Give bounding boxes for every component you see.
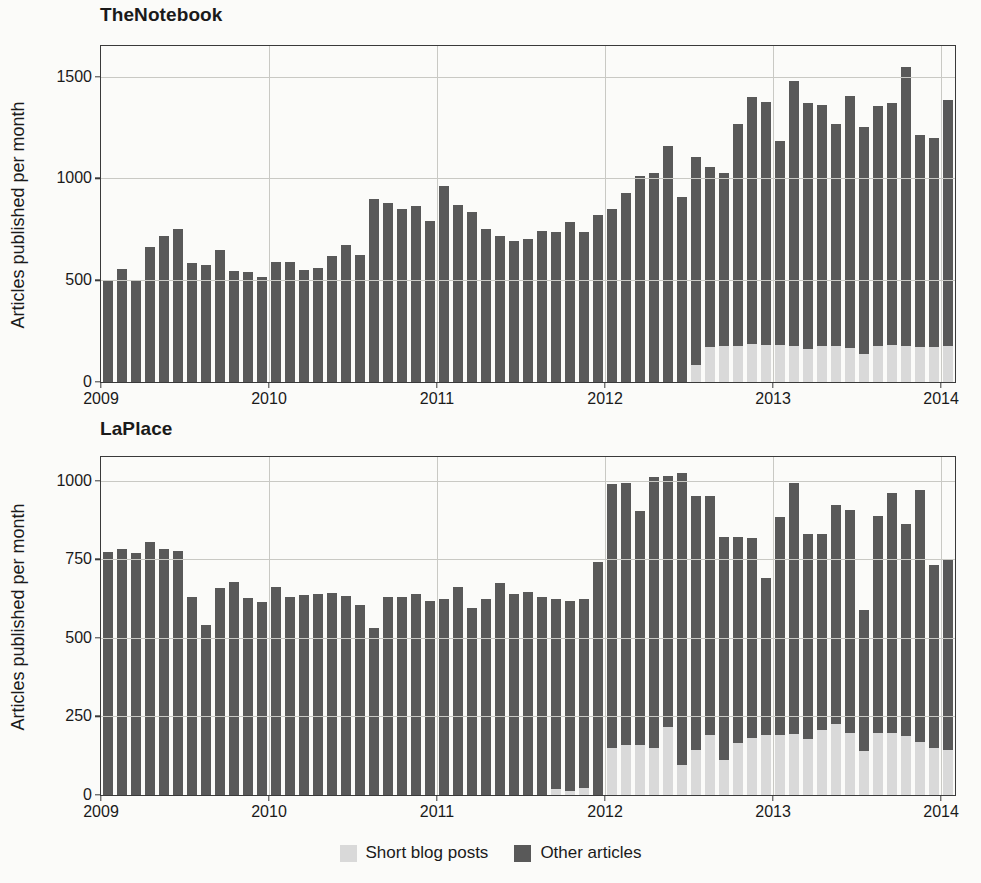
legend-item: Short blog posts	[340, 843, 489, 863]
legend-swatch-other	[514, 845, 531, 862]
bar-segment-short-blog-posts	[943, 346, 953, 382]
bar-column	[579, 457, 589, 795]
bar-column	[117, 457, 127, 795]
bar-segment-other-articles	[369, 199, 379, 382]
bar-column	[803, 457, 813, 795]
bar-column	[733, 46, 743, 382]
bar-segment-other-articles	[621, 483, 631, 746]
bar-segment-other-articles	[719, 537, 729, 760]
bar-column	[467, 457, 477, 795]
bar-column	[551, 46, 561, 382]
bar-column	[257, 457, 267, 795]
bar-column	[103, 457, 113, 795]
bar-column	[565, 457, 575, 795]
x-tick-mark	[436, 795, 437, 801]
bar-segment-other-articles	[411, 206, 421, 382]
x-tick-mark	[436, 382, 437, 388]
x-tick-label: 2014	[923, 390, 959, 408]
legend-label: Other articles	[540, 843, 641, 863]
y-gridline	[101, 280, 955, 281]
bar-segment-other-articles	[733, 537, 743, 742]
bar-segment-other-articles	[887, 103, 897, 345]
bar-column	[509, 46, 519, 382]
bar-column	[635, 457, 645, 795]
y-tick-mark	[95, 716, 101, 717]
bar-segment-other-articles	[425, 601, 435, 795]
bar-column	[593, 457, 603, 795]
bar-column	[201, 46, 211, 382]
bar-column	[215, 457, 225, 795]
bar-segment-other-articles	[873, 106, 883, 346]
bar-segment-short-blog-posts	[789, 734, 799, 795]
bar-segment-short-blog-posts	[691, 365, 701, 382]
bar-column	[481, 46, 491, 382]
bar-segment-other-articles	[117, 269, 127, 382]
bar-segment-other-articles	[677, 197, 687, 382]
bar-segment-short-blog-posts	[579, 788, 589, 795]
bar-column	[481, 457, 491, 795]
bar-column	[425, 46, 435, 382]
bar-segment-other-articles	[859, 127, 869, 353]
bar-column	[579, 46, 589, 382]
bar-segment-other-articles	[551, 232, 561, 382]
bar-column	[383, 46, 393, 382]
bar-column	[677, 46, 687, 382]
y-gridline	[101, 716, 955, 717]
bar-segment-other-articles	[817, 105, 827, 346]
bar-segment-other-articles	[831, 124, 841, 345]
x-gridline	[437, 457, 438, 795]
x-tick-label: 2014	[923, 803, 959, 821]
bar-segment-short-blog-posts	[551, 789, 561, 795]
bar-segment-other-articles	[313, 594, 323, 795]
y-axis-label-laplace: Articles published per month	[8, 437, 29, 797]
chart-legend: Short blog postsOther articles	[0, 843, 981, 863]
bar-segment-other-articles	[691, 157, 701, 365]
bar-column	[663, 457, 673, 795]
bar-segment-other-articles	[523, 239, 533, 382]
bar-segment-other-articles	[341, 596, 351, 795]
bar-segment-other-articles	[845, 96, 855, 348]
x-gridline	[605, 46, 606, 382]
bar-segment-short-blog-posts	[873, 346, 883, 382]
y-axis-label-thenotebook: Articles published per month	[8, 35, 29, 395]
bar-column	[705, 46, 715, 382]
bar-segment-other-articles	[593, 562, 603, 795]
bar-segment-short-blog-posts	[929, 748, 939, 795]
bar-segment-other-articles	[383, 597, 393, 795]
bar-column	[859, 46, 869, 382]
bar-column	[215, 46, 225, 382]
bar-segment-other-articles	[663, 476, 673, 728]
bar-column	[691, 46, 701, 382]
bar-segment-other-articles	[355, 255, 365, 382]
bar-segment-short-blog-posts	[663, 727, 673, 795]
bar-column	[845, 46, 855, 382]
bar-segment-other-articles	[131, 281, 141, 382]
x-gridline	[941, 457, 942, 795]
bar-segment-other-articles	[607, 209, 617, 382]
bar-segment-other-articles	[537, 231, 547, 382]
bar-column	[243, 46, 253, 382]
bar-segment-other-articles	[201, 625, 211, 795]
bar-column	[453, 46, 463, 382]
bar-column	[187, 46, 197, 382]
x-gridline	[773, 46, 774, 382]
bar-segment-short-blog-posts	[915, 742, 925, 795]
y-tick-label: 750	[65, 550, 92, 568]
bar-segment-other-articles	[705, 167, 715, 347]
bar-column	[411, 46, 421, 382]
bar-column	[341, 46, 351, 382]
bar-segment-other-articles	[355, 605, 365, 795]
bar-column	[285, 46, 295, 382]
bar-column	[817, 46, 827, 382]
bar-segment-other-articles	[411, 594, 421, 795]
bar-column	[635, 46, 645, 382]
bar-segment-other-articles	[327, 256, 337, 382]
bar-segment-other-articles	[243, 598, 253, 795]
bar-column	[607, 46, 617, 382]
bar-segment-other-articles	[887, 493, 897, 733]
y-tick-label: 250	[65, 707, 92, 725]
bar-column	[663, 46, 673, 382]
chart-panel-laplace: LaPlace Articles published per month 025…	[0, 416, 981, 828]
bar-segment-short-blog-posts	[859, 751, 869, 795]
bar-column	[173, 46, 183, 382]
